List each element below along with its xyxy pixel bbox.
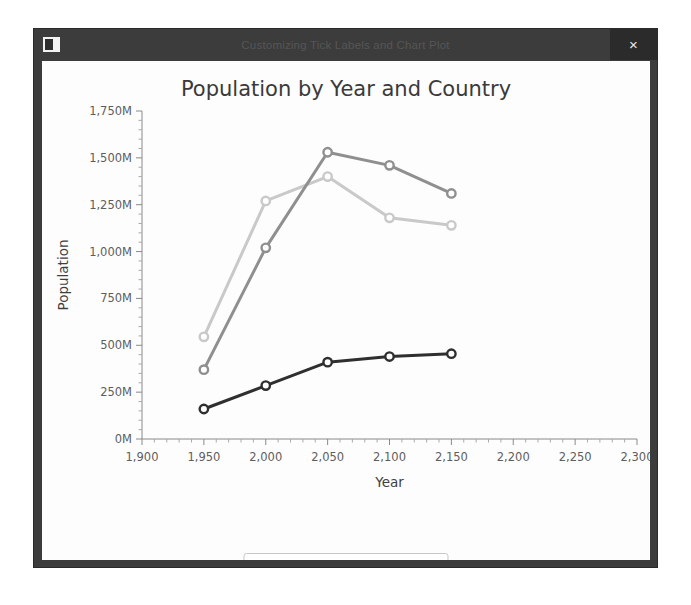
window-title: Customizing Tick Labels and Chart Plot — [34, 39, 657, 51]
application-window: Customizing Tick Labels and Chart Plot ×… — [33, 28, 658, 568]
x-axis-tick-label: 1,900 — [126, 450, 159, 464]
data-point-india[interactable] — [447, 189, 455, 197]
y-axis-tick-label: 1,250M — [89, 198, 132, 212]
data-point-usa[interactable] — [200, 405, 208, 413]
x-axis-tick-label: 2,250 — [559, 450, 592, 464]
series-line-china — [204, 177, 452, 337]
y-axis-tick-label: 750M — [100, 291, 132, 305]
x-axis-title: Year — [374, 474, 404, 490]
data-point-china[interactable] — [385, 214, 393, 222]
screenshot-root: Customizing Tick Labels and Chart Plot ×… — [0, 0, 691, 605]
x-axis-tick-label: 1,950 — [187, 450, 220, 464]
y-axis-tick-label: 1,500M — [89, 151, 132, 165]
x-axis-tick-label: 2,100 — [373, 450, 406, 464]
data-point-india[interactable] — [262, 244, 270, 252]
x-axis-tick-label: 2,050 — [311, 450, 344, 464]
y-axis-tick-label: 1,750M — [89, 104, 132, 118]
y-axis-tick-label: 0M — [115, 432, 132, 446]
data-point-usa[interactable] — [447, 350, 455, 358]
window-client-area: Population by Year and Country 0M250M500… — [42, 61, 650, 560]
data-point-china[interactable] — [323, 172, 331, 180]
y-axis-tick-label: 1,000M — [89, 245, 132, 259]
data-point-china[interactable] — [262, 197, 270, 205]
data-point-india[interactable] — [200, 365, 208, 373]
close-icon[interactable]: × — [610, 29, 657, 60]
chart-legend[interactable]: ChinaIndiaUSA — [243, 553, 448, 560]
x-axis-tick-label: 2,300 — [621, 450, 650, 464]
data-point-india[interactable] — [323, 148, 331, 156]
y-axis-tick-label: 500M — [100, 338, 132, 352]
y-axis-title: Population — [55, 240, 71, 311]
chart-title: Population by Year and Country — [42, 77, 650, 101]
series-line-india — [204, 152, 452, 369]
data-point-usa[interactable] — [385, 352, 393, 360]
data-point-china[interactable] — [200, 333, 208, 341]
data-point-usa[interactable] — [262, 381, 270, 389]
line-chart: 0M250M500M750M1,000M1,250M1,500M1,750M1,… — [42, 101, 650, 501]
x-axis-tick-label: 2,000 — [249, 450, 282, 464]
x-axis-tick-label: 2,200 — [497, 450, 530, 464]
data-point-india[interactable] — [385, 161, 393, 169]
x-axis-tick-label: 2,150 — [435, 450, 468, 464]
chart-plot-area: 0M250M500M750M1,000M1,250M1,500M1,750M1,… — [42, 101, 650, 501]
window-app-icon — [43, 37, 60, 52]
window-titlebar[interactable]: Customizing Tick Labels and Chart Plot × — [34, 29, 657, 60]
data-point-usa[interactable] — [323, 358, 331, 366]
y-axis-tick-label: 250M — [100, 385, 132, 399]
data-point-china[interactable] — [447, 221, 455, 229]
